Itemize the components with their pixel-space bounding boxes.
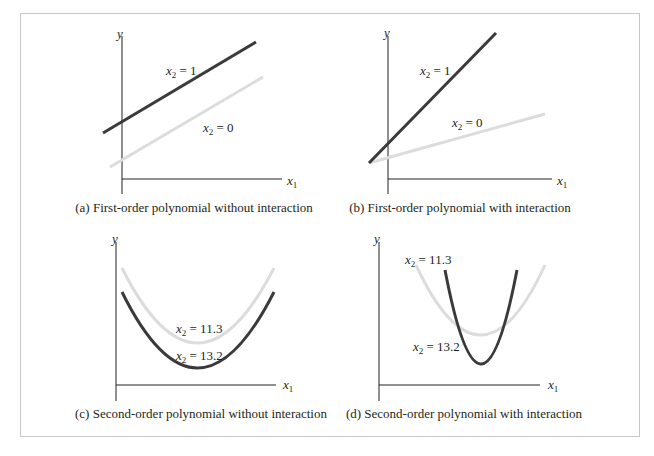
panel-caption: (d) Second-order polynomial with interac…	[346, 406, 583, 421]
curve-label-x2-11-3: x2 = 11.3	[175, 321, 222, 338]
panel-d: y x1 x2 = 11.3 x2 = 13.2 (d) Second-orde…	[346, 231, 583, 421]
x-axis-label: x1	[286, 173, 297, 190]
curve-label-x2-13-2: x2 = 13.2	[412, 339, 460, 356]
y-axis-label: y	[110, 231, 118, 246]
panel-b: y x1 x2 = 1 x2 = 0 (b) First-order polyn…	[349, 25, 571, 215]
figure-canvas: y x1 x2 = 1 x2 = 0 (a) First-order polyn…	[0, 0, 654, 456]
curve-label-x2-11-3: x2 = 11.3	[404, 252, 451, 269]
y-axis-label: y	[115, 26, 123, 41]
panel-caption: (c) Second-order polynomial without inte…	[75, 406, 327, 421]
panel-c: y x1 x2 = 11.3 x2 = 13.2 (c) Second-orde…	[75, 231, 327, 421]
curve-label-x2-1: x2 = 1	[165, 63, 197, 80]
panel-caption: (b) First-order polynomial with interact…	[349, 200, 571, 215]
curve-label-x2-0: x2 = 0	[451, 115, 483, 132]
x-axis-label: x1	[556, 173, 567, 190]
y-axis-label: y	[382, 25, 390, 40]
curve-label-x2-0: x2 = 0	[202, 120, 234, 137]
panel-caption: (a) First-order polynomial without inter…	[75, 200, 313, 215]
curve-label-x2-13-2: x2 = 13.2	[175, 348, 223, 365]
x-axis-label: x1	[282, 377, 293, 394]
x-axis-label: x1	[547, 377, 558, 394]
panel-a: y x1 x2 = 1 x2 = 0 (a) First-order polyn…	[75, 26, 313, 215]
curve-x2-11-3	[416, 265, 545, 335]
curve-x2-0	[110, 77, 263, 167]
curve-label-x2-1: x2 = 1	[419, 63, 451, 80]
y-axis-label: y	[372, 231, 380, 246]
